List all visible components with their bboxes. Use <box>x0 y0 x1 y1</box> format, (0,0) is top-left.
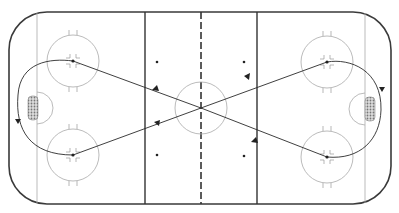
net-left <box>28 96 38 120</box>
hockey-rink-diagram <box>0 0 399 213</box>
net-right <box>365 97 375 121</box>
